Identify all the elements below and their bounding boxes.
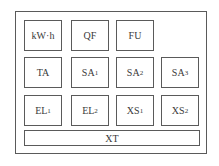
component-label: SA bbox=[127, 67, 140, 78]
component-subscript: 2 bbox=[185, 107, 189, 115]
component-label: TA bbox=[37, 67, 50, 78]
component-label: EL bbox=[82, 105, 94, 116]
component-sa2: SA2 bbox=[116, 57, 154, 88]
component-subscript: 1 bbox=[47, 107, 51, 115]
component-kwh-meter: kW·h bbox=[24, 20, 62, 51]
component-ta: TA bbox=[24, 57, 62, 88]
component-label: kW·h bbox=[32, 30, 55, 41]
component-label: XS bbox=[127, 105, 140, 116]
component-label: FU bbox=[129, 30, 142, 41]
component-subscript: 2 bbox=[140, 69, 144, 77]
component-el1: EL1 bbox=[24, 95, 62, 126]
component-subscript: 2 bbox=[94, 107, 98, 115]
component-label: SA bbox=[82, 67, 95, 78]
component-sa1: SA1 bbox=[71, 57, 109, 88]
component-label: EL bbox=[35, 105, 47, 116]
component-label: SA bbox=[172, 67, 185, 78]
component-sa3: SA3 bbox=[161, 57, 199, 88]
component-subscript: 3 bbox=[185, 69, 189, 77]
terminal-strip-xt: XT bbox=[24, 130, 200, 146]
component-label: XS bbox=[172, 105, 185, 116]
component-qf-breaker: QF bbox=[71, 20, 109, 51]
component-xs2: XS2 bbox=[161, 95, 199, 126]
component-subscript: 1 bbox=[95, 69, 99, 77]
component-subscript: 1 bbox=[140, 107, 144, 115]
component-el2: EL2 bbox=[71, 95, 109, 126]
component-label: QF bbox=[84, 30, 97, 41]
component-fu-fuse: FU bbox=[116, 20, 154, 51]
component-xs1: XS1 bbox=[116, 95, 154, 126]
component-label: XT bbox=[105, 133, 118, 144]
